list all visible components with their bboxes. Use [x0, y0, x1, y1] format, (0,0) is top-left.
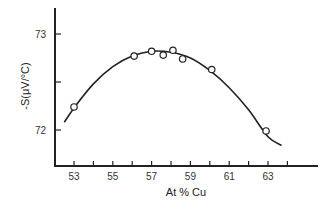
x-ticks: 535557596163 — [68, 161, 287, 182]
data-point — [131, 53, 137, 59]
data-point — [71, 104, 77, 110]
y-tick-label: 72 — [35, 125, 47, 136]
data-points — [71, 47, 269, 134]
x-tick-label: 61 — [224, 171, 236, 182]
x-tick-label: 53 — [68, 171, 80, 182]
data-point — [160, 52, 166, 58]
x-axis-title: At % Cu — [166, 186, 206, 198]
data-point — [170, 47, 176, 53]
y-tick-label: 73 — [35, 29, 47, 40]
x-tick-label: 55 — [107, 171, 119, 182]
x-tick-label: 59 — [185, 171, 197, 182]
data-point — [209, 66, 215, 72]
fitted-curve — [64, 51, 281, 145]
y-axis-title: -S(μV/°C) — [19, 62, 31, 109]
x-tick-label: 57 — [146, 171, 158, 182]
x-tick-label: 63 — [262, 171, 274, 182]
data-point — [263, 128, 269, 134]
y-ticks: 7273 — [35, 29, 61, 136]
data-point — [179, 56, 185, 62]
chart-canvas: 535557596163 7273 At % Cu -S(μV/°C) — [0, 0, 333, 204]
data-point — [148, 48, 154, 54]
